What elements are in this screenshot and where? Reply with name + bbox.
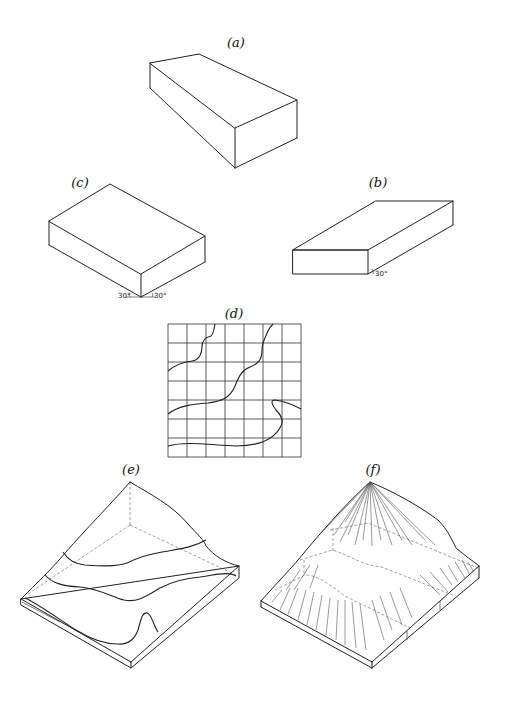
panel-e: (e) [21, 462, 239, 668]
panel-a: (a) [150, 35, 297, 168]
panel-c: (c) 30° 30° [49, 175, 205, 300]
block-diagram-hachures [261, 482, 479, 668]
panel-b-label: (b) [369, 175, 387, 190]
box-a-oblique [150, 54, 297, 168]
panel-e-label: (e) [122, 462, 140, 477]
panel-b: (b) 30° [293, 175, 453, 278]
panel-f: (f) [261, 462, 479, 668]
contour-grid [168, 324, 301, 457]
angle-label-right: 30° [154, 292, 166, 300]
box-b-oblique [293, 201, 453, 274]
angle-label: 30° [375, 270, 387, 278]
panel-a-label: (a) [227, 35, 245, 50]
panel-c-label: (c) [71, 175, 88, 190]
block-diagram-contours [21, 482, 239, 668]
panel-f-label: (f) [366, 462, 381, 477]
angle-label-left: 30° [118, 292, 130, 300]
panel-d: (d) [168, 306, 301, 457]
panel-d-label: (d) [225, 306, 243, 321]
box-c-isometric [49, 184, 205, 297]
diagram-canvas: (a) (c) 30° 30° (b) [0, 0, 506, 711]
contour-lines [168, 324, 301, 446]
